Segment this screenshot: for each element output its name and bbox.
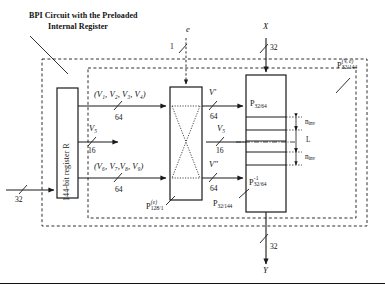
- x-input-slash: [260, 44, 268, 53]
- vprime-label: V′: [209, 88, 216, 97]
- vdprime-label: V″: [209, 160, 218, 169]
- perm-stack-block: [246, 75, 286, 212]
- register-label: 144-bit register R: [62, 143, 71, 201]
- y-output-width: 32: [270, 243, 278, 251]
- bus-bottom-width: 64: [115, 186, 123, 194]
- outer-box-label-leader: [336, 78, 350, 93]
- perm-bottom-block-label: P-132/64: [249, 176, 266, 187]
- v5-right-width: 16: [216, 147, 224, 155]
- bus-v5-width: 16: [88, 147, 96, 155]
- bus-top-group-label: (V₁, V₂, V₃, V₄): [94, 90, 146, 99]
- x-input-width: 32: [270, 44, 278, 52]
- input-bus-width: 32: [15, 196, 23, 204]
- perm-top-block-label: P32/64: [250, 100, 267, 109]
- outer-box-label: P(V, e)32/144: [337, 59, 357, 70]
- n-inv-bottom-label: ninv: [305, 154, 315, 162]
- title-leader-line: [30, 36, 68, 74]
- crossbar-block: [170, 87, 202, 200]
- circuit-diagram-canvas: [0, 0, 385, 293]
- crossbar-block-label: P(e)128/1: [146, 200, 163, 211]
- vprime-width: 64: [210, 113, 218, 121]
- bus-v5-label: V5: [89, 124, 97, 134]
- l-label: L: [306, 137, 310, 144]
- bus-bottom-group-label: (V₆, V₇,V₈, V₉): [94, 162, 143, 171]
- y-output-slash: [260, 234, 268, 243]
- v5-right-label: V5: [217, 124, 225, 134]
- x-input-label: X: [263, 22, 268, 31]
- figure-title-line2: Internal Register: [48, 23, 108, 31]
- enable-width: 1: [170, 43, 174, 51]
- vdprime-width: 64: [210, 185, 218, 193]
- bus-top-width: 64: [115, 114, 123, 122]
- y-output-label: Y: [263, 266, 268, 275]
- n-inv-top-label: ninv: [305, 119, 315, 127]
- enable-label: e: [186, 25, 190, 34]
- bpi-circuit-figure: BPI Circuit with the Preloaded Internal …: [0, 0, 385, 293]
- perm-stack-label: P32/144: [213, 200, 232, 209]
- page-bottom-rule: [0, 283, 385, 284]
- figure-title-line1: BPI Circuit with the Preloaded: [29, 12, 138, 20]
